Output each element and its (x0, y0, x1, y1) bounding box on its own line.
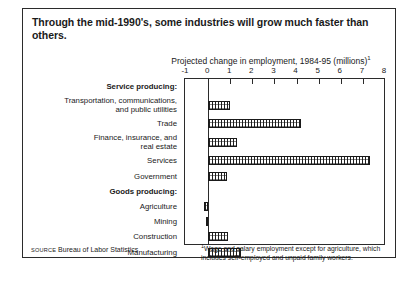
category-label: Mining (25, 217, 181, 226)
category-label: Services (25, 156, 181, 165)
bar (204, 202, 208, 211)
x-tick-mark (274, 79, 275, 84)
category-group-label: Service producing: (25, 82, 181, 91)
axis-title: Projected change in employment, 1984-95 … (151, 55, 391, 66)
footnote: 1Wage and salary employment except for a… (201, 242, 391, 262)
plot-area (184, 78, 385, 245)
x-tick-label: -1 (177, 66, 193, 75)
chart-title: Through the mid-1990's, some industries … (32, 16, 384, 41)
figure-panel: Through the mid-1990's, some industries … (22, 8, 396, 258)
source-label: SOURCE (31, 247, 56, 253)
category-group-label: Goods producing: (25, 187, 181, 196)
bar (208, 119, 301, 128)
bar (208, 138, 237, 147)
category-label: Finance, insurance, and real estate (25, 133, 181, 151)
x-tick-mark (341, 79, 342, 84)
bar (208, 172, 227, 181)
x-tick-mark (319, 79, 320, 84)
category-label: Construction (25, 232, 181, 241)
x-tick-mark (363, 79, 364, 84)
x-tick-label: 6 (332, 66, 348, 75)
footnote-text: Wage and salary employment except for ag… (201, 245, 380, 260)
x-tick-mark (297, 79, 298, 84)
category-label: Agriculture (25, 202, 181, 211)
x-tick-label: 4 (288, 66, 304, 75)
x-tick-label: 7 (354, 66, 370, 75)
source-value: Bureau of Labor Statistics (58, 246, 138, 253)
category-label: Trade (25, 119, 181, 128)
x-tick-label: 1 (221, 66, 237, 75)
category-label: Transportation, communications, and publ… (25, 96, 181, 114)
x-tick-mark (252, 79, 253, 84)
bar (208, 156, 369, 165)
x-tick-mark (230, 79, 231, 84)
x-tick-label: 0 (199, 66, 215, 75)
x-tick-label: 2 (243, 66, 259, 75)
x-tick-mark (208, 79, 209, 84)
x-tick-label: 3 (265, 66, 281, 75)
bar (206, 217, 208, 226)
axis-title-text: Projected change in employment, 1984-95 … (171, 56, 367, 66)
bar (208, 232, 228, 241)
axis-title-footnote-marker: 1 (367, 55, 370, 61)
category-label: Government (25, 172, 181, 181)
x-tick-label: 8 (376, 66, 392, 75)
bar (208, 101, 230, 110)
x-tick-label: 5 (310, 66, 326, 75)
x-axis-tick-labels: -1012345678 (23, 66, 397, 77)
source-note: SOURCE Bureau of Labor Statistics (31, 246, 138, 253)
